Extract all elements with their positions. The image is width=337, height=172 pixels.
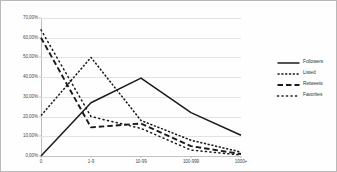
legend-swatch-icon xyxy=(277,92,300,100)
legend-item-followers[interactable]: Followers xyxy=(277,57,335,68)
legend-item-label: Listed xyxy=(303,71,316,76)
y-tick-label: 30,00% xyxy=(23,95,38,100)
legend-item-retweets[interactable]: Retweets xyxy=(277,79,335,90)
y-tick-label: 20,00% xyxy=(23,114,38,119)
legend-item-favorites[interactable]: Favorites xyxy=(277,90,335,101)
legend-swatch-icon xyxy=(277,59,300,67)
x-tick-label: 10-99 xyxy=(135,160,146,165)
y-tick-label: 60,00% xyxy=(23,35,38,40)
legend-swatch-icon xyxy=(277,81,300,89)
plot-area: 0,00%10,00%20,00%30,00%40,00%50,00%60,00… xyxy=(41,18,241,156)
legend-item-label: Favorites xyxy=(303,93,322,98)
y-tick-label: 40,00% xyxy=(23,75,38,80)
chart-figure: 0,00%10,00%20,00%30,00%40,00%50,00%60,00… xyxy=(0,0,337,172)
y-tick-label: 10,00% xyxy=(23,134,38,139)
chart-legend: FollowersListedRetweetsFavorites xyxy=(277,57,335,101)
series-line-retweets xyxy=(41,38,241,154)
x-tick-label: 1000+ xyxy=(235,160,247,165)
legend-item-listed[interactable]: Listed xyxy=(277,68,335,79)
legend-swatch-icon xyxy=(277,70,300,78)
legend-item-label: Followers xyxy=(303,60,323,65)
series-line-listed xyxy=(41,57,241,152)
y-tick-label: 0,00% xyxy=(25,154,38,159)
series-lines xyxy=(41,18,241,156)
x-tick-label: 100-999 xyxy=(183,160,199,165)
y-tick-label: 50,00% xyxy=(23,55,38,60)
x-tick-label: 1-9 xyxy=(88,160,94,165)
x-tick-label: 0 xyxy=(40,160,42,165)
y-tick-label: 70,00% xyxy=(23,16,38,21)
legend-item-label: Retweets xyxy=(303,82,323,87)
